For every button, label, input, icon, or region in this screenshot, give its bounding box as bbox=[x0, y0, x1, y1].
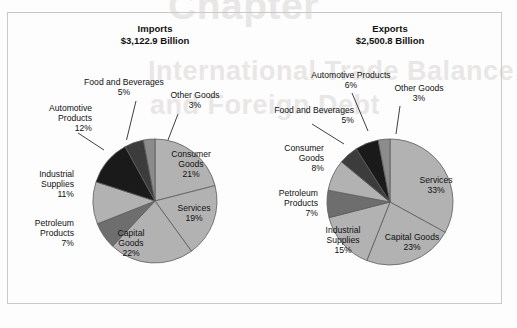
imports-capital-name: Capital bbox=[118, 228, 145, 238]
imports-food-name: Food and Beverages bbox=[84, 77, 164, 87]
label-leader-line bbox=[312, 124, 344, 144]
imports-services-name: Services bbox=[178, 203, 211, 213]
exports-petroleum-pct: 7% bbox=[248, 208, 318, 218]
exports-food-name: Food and Beverages bbox=[274, 105, 354, 115]
imports-label-capital-goods: Capital Goods 22% bbox=[103, 228, 159, 259]
imports-petroleum-pct: 7% bbox=[4, 238, 74, 248]
exports-automotive-name: Automotive Products bbox=[311, 70, 390, 80]
exports-label-services: Services 33% bbox=[405, 175, 467, 195]
exports-label-consumer-goods: Consumer Goods 8% bbox=[256, 143, 324, 174]
exports-petroleum-name: Petroleum bbox=[279, 188, 318, 198]
imports-label-industrial-supplies: Industrial Supplies 11% bbox=[8, 169, 74, 200]
imports-capital-pct: 22% bbox=[103, 248, 159, 258]
label-leader-line bbox=[168, 114, 178, 140]
exports-consumer-pct: 8% bbox=[256, 163, 324, 173]
label-leader-line bbox=[78, 133, 104, 150]
label-leader-line bbox=[352, 93, 368, 131]
label-leader-line bbox=[127, 101, 137, 140]
imports-label-petroleum-products: Petroleum Products 7% bbox=[4, 218, 74, 249]
exports-capital-name: Capital Goods bbox=[385, 232, 439, 242]
imports-capital-name2: Goods bbox=[103, 238, 159, 248]
exports-industrial-name: Industrial bbox=[326, 225, 361, 235]
exports-services-pct: 33% bbox=[405, 185, 467, 195]
imports-automotive-pct: 12% bbox=[20, 123, 92, 133]
chart-stage: Imports $3,122.9 Billion Exports $2,500.… bbox=[0, 0, 517, 328]
imports-consumer-name2: Goods bbox=[158, 159, 224, 169]
exports-industrial-name2: Supplies bbox=[310, 235, 376, 245]
imports-automotive-name: Automotive bbox=[49, 103, 92, 113]
exports-petroleum-name2: Products bbox=[248, 198, 318, 208]
exports-label-industrial-supplies: Industrial Supplies 15% bbox=[310, 225, 376, 256]
exports-consumer-name: Consumer bbox=[284, 143, 324, 153]
imports-industrial-pct: 11% bbox=[8, 189, 74, 199]
imports-other-name: Other Goods bbox=[170, 90, 219, 100]
exports-capital-pct: 23% bbox=[370, 242, 454, 252]
exports-other-name: Other Goods bbox=[394, 83, 443, 93]
exports-consumer-name2: Goods bbox=[256, 153, 324, 163]
imports-industrial-name: Industrial bbox=[39, 169, 74, 179]
imports-automotive-name2: Products bbox=[20, 113, 92, 123]
exports-label-capital-goods: Capital Goods 23% bbox=[370, 232, 454, 252]
imports-label-services: Services 19% bbox=[163, 203, 225, 223]
imports-label-other-goods: Other Goods 3% bbox=[159, 90, 231, 110]
exports-other-pct: 3% bbox=[383, 93, 455, 103]
exports-label-food-and-beverages: Food and Beverages 5% bbox=[250, 105, 354, 125]
exports-label-petroleum-products: Petroleum Products 7% bbox=[248, 188, 318, 219]
imports-petroleum-name: Petroleum bbox=[35, 218, 74, 228]
exports-industrial-pct: 15% bbox=[310, 245, 376, 255]
imports-consumer-name: Consumer bbox=[171, 149, 211, 159]
imports-other-pct: 3% bbox=[159, 100, 231, 110]
exports-food-pct: 5% bbox=[250, 115, 354, 125]
exports-services-name: Services bbox=[420, 175, 453, 185]
imports-petroleum-name2: Products bbox=[4, 228, 74, 238]
label-leader-line bbox=[396, 106, 400, 134]
imports-label-automotive-products: Automotive Products 12% bbox=[20, 103, 92, 134]
imports-industrial-name2: Supplies bbox=[8, 179, 74, 189]
imports-label-consumer-goods: Consumer Goods 21% bbox=[158, 149, 224, 180]
imports-consumer-pct: 21% bbox=[158, 169, 224, 179]
imports-services-pct: 19% bbox=[163, 213, 225, 223]
exports-label-other-goods: Other Goods 3% bbox=[383, 83, 455, 103]
